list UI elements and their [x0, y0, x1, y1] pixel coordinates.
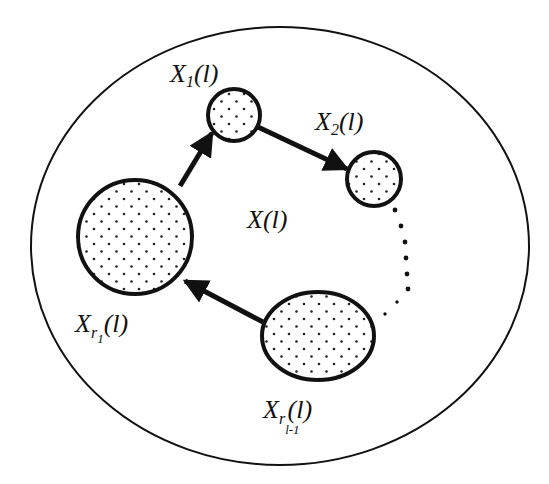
edge-xrl1-to-xr1: [185, 281, 263, 322]
node-x2: [347, 152, 401, 206]
edge-xr1-to-x1: [180, 133, 212, 186]
label-outer-set: X(l): [246, 205, 287, 234]
label-x1: X1(l): [169, 59, 218, 90]
label-xr1: Xr1(l): [74, 309, 128, 346]
node-xr1: [78, 180, 192, 294]
label-xrl1: Xrl-1(l): [262, 395, 312, 437]
set-cycle-diagram: X1(l) X2(l) X(l) Xr1(l) Xrl-1(l): [0, 0, 549, 484]
label-x2: X2(l): [314, 107, 363, 138]
node-x1: [208, 89, 260, 141]
node-xrl1: [262, 292, 374, 380]
dotted-path-x2-to-xrl1: [383, 208, 410, 316]
